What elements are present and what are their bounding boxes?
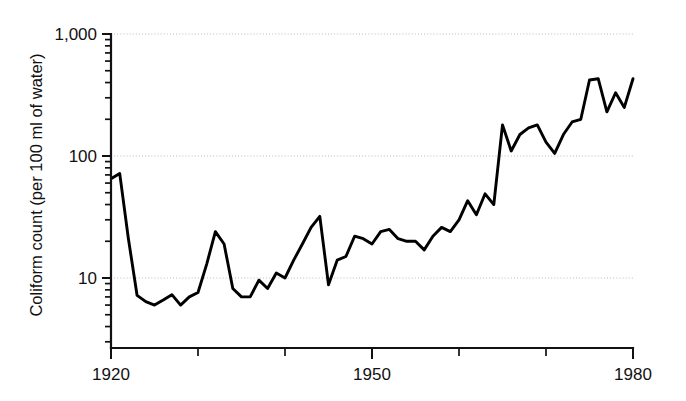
chart-canvas: 1,00010010192019501980 Coliform count (p… [0, 0, 686, 401]
x-tick-label-1920: 1920 [92, 365, 130, 384]
y-tick-label-10: 10 [78, 269, 97, 288]
y-tick-label-1000: 1,000 [54, 25, 97, 44]
axes-group [111, 34, 633, 348]
x-tick-label-1950: 1950 [353, 365, 391, 384]
tick-marks-group [102, 34, 633, 359]
coliform-count-chart: 1,00010010192019501980 Coliform count (p… [0, 0, 686, 401]
data-series-group [111, 79, 633, 305]
y-tick-label-100: 100 [69, 147, 97, 166]
x-tick-label-1980: 1980 [614, 365, 652, 384]
tick-labels-group: 1,00010010192019501980 [54, 25, 651, 384]
y-axis-title-group: Coliform count (per 100 ml of water) [27, 53, 45, 316]
y-axis-title: Coliform count (per 100 ml of water) [27, 53, 45, 316]
series-line-0 [111, 79, 633, 305]
